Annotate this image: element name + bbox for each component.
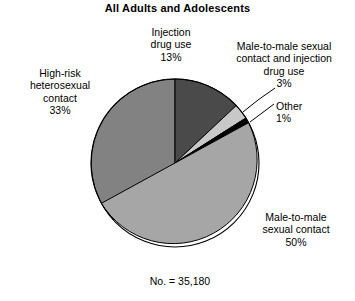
- slice-value-other: 1%: [276, 112, 336, 124]
- chart-total-caption: No. = 35,180: [100, 275, 260, 287]
- slice-label-line: heterosexual: [6, 79, 114, 91]
- slice-label-line: contact and injection: [216, 52, 352, 64]
- slice-label-high-risk-heterosexual-contact: High-risk heterosexual contact 33%: [6, 67, 114, 117]
- slice-label-mmsc-and-idu: Male-to-male sexual contact and injectio…: [216, 40, 352, 90]
- slice-value-injection-drug-use: 13%: [128, 51, 214, 63]
- slice-value-mmsc-and-idu: 3%: [216, 77, 352, 89]
- slice-label-line: contact: [6, 92, 114, 104]
- slice-label-line: Injection: [128, 26, 214, 38]
- slice-label-line: Male-to-male sexual: [216, 40, 352, 52]
- slice-label-line: Other: [276, 100, 336, 112]
- slice-label-line: drug use: [216, 65, 352, 77]
- slice-value-male-to-male-sexual-contact: 50%: [244, 236, 348, 248]
- slice-value-high-risk-heterosexual-contact: 33%: [6, 104, 114, 116]
- slice-label-line: sexual contact: [244, 223, 348, 235]
- slice-label-male-to-male-sexual-contact: Male-to-male sexual contact 50%: [244, 211, 348, 248]
- pie-chart-figure: All Adults and Adolescents Injection dru…: [0, 0, 355, 301]
- slice-label-injection-drug-use: Injection drug use 13%: [128, 26, 214, 63]
- slice-label-other: Other 1%: [276, 100, 336, 125]
- slice-label-line: High-risk: [6, 67, 114, 79]
- slice-label-line: drug use: [128, 38, 214, 50]
- slice-label-line: Male-to-male: [244, 211, 348, 223]
- leader-line-mmsc-idu: [243, 88, 275, 112]
- leader-line-other: [250, 104, 274, 122]
